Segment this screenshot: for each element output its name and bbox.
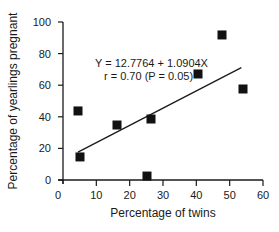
x-tick-label: 40 [190, 189, 202, 201]
y-tick-label: 100 [33, 16, 51, 28]
x-tick-label: 50 [224, 189, 236, 201]
data-point-square [239, 84, 248, 93]
equation-annotation: Y = 12.7764 + 1.0904X [95, 57, 209, 69]
data-point-square [76, 152, 85, 161]
x-tick-label: 10 [90, 189, 102, 201]
x-tick-label: 60 [257, 189, 269, 201]
x-ticks: 0102030405060 [55, 180, 269, 201]
y-axis-label: Percentage of yearlings pregnant [6, 12, 20, 189]
x-tick-label: 30 [157, 189, 169, 201]
x-tick-label: 0 [55, 189, 61, 201]
data-point-square [147, 115, 156, 124]
data-point-square [113, 121, 122, 130]
data-point-square [143, 172, 152, 181]
scatter-chart: 0102030405060 020406080100 Y = 12.7764 +… [0, 0, 279, 232]
data-point-square [218, 30, 227, 39]
x-tick-label: 20 [124, 189, 136, 201]
axes [58, 22, 263, 184]
data-points [74, 30, 248, 180]
x-axis-label: Percentage of twins [110, 206, 215, 220]
y-tick-label: 80 [39, 48, 51, 60]
data-point-square [194, 69, 203, 78]
correlation-annotation: r = 0.70 (P = 0.05) [104, 70, 193, 82]
y-ticks: 020406080100 [33, 16, 63, 186]
data-point-square [74, 106, 83, 115]
y-tick-label: 40 [39, 111, 51, 123]
y-tick-label: 0 [45, 174, 51, 186]
y-tick-label: 60 [39, 79, 51, 91]
y-tick-label: 20 [39, 142, 51, 154]
